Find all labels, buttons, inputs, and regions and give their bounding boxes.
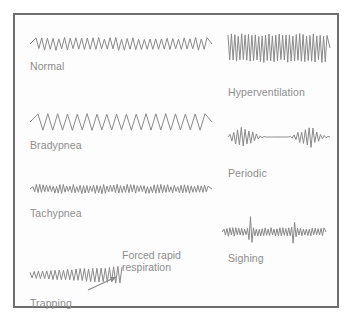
waveform-trace-tachypnea [30,184,212,193]
waveform-trace-periodic [228,127,330,147]
waveform-label-normal: Normal [30,60,64,72]
waveform-label-tachypnea: Tachypnea [30,207,82,219]
waveform-trace-normal [30,38,212,51]
waveform-label-bradypnea: Bradypnea [30,139,82,151]
forced-rapid-respiration-annotation: Forced rapid respiration [122,249,181,273]
respiratory-patterns-figure: NormalBradypneaTachypneaTrappingHyperven… [0,0,352,322]
waveform-label-hyperventilation: Hyperventilation [228,86,305,98]
waveform-label-periodic: Periodic [228,167,267,179]
waveform-label-sighing: Sighing [228,252,264,264]
waveform-trace-sighing [222,217,326,244]
waveform-trace-bradypnea [30,114,212,131]
waveform-trace-hyperventilation [228,34,330,63]
waveform-label-trapping: Trapping [30,297,72,309]
waveform-canvas [0,0,352,322]
